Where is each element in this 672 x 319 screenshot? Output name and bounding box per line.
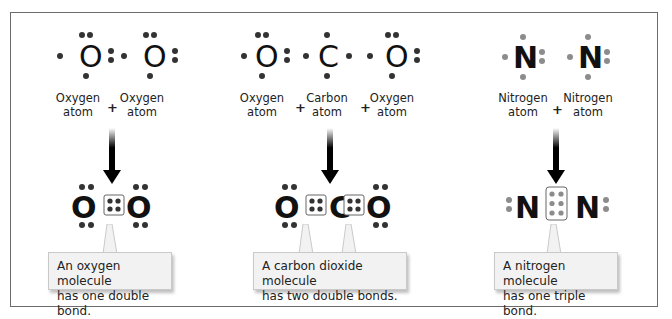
co2-molecule-lewis: O C O	[273, 182, 401, 230]
callout-pointer	[339, 224, 363, 254]
reaction-arrow-icon	[100, 128, 124, 188]
callout-pointer	[544, 224, 568, 254]
nitrogen-atoms-lewis: N N	[496, 26, 626, 86]
svg-text:N: N	[575, 190, 600, 224]
reactant-label-oxygen-1: Oxygenatom	[43, 91, 113, 119]
svg-text:O: O	[255, 39, 279, 74]
callout-pointer	[100, 224, 124, 254]
svg-text:O: O	[366, 190, 392, 225]
callout-oxygen: An oxygen moleculehas one double bond.	[48, 252, 172, 290]
reactant-label-nitrogen-2: Nitrogenatom	[553, 91, 623, 119]
nitrogen-molecule-lewis: N N	[505, 184, 615, 224]
svg-text:N: N	[515, 190, 540, 224]
oxygen-atoms-lewis: O O	[50, 24, 180, 84]
callout-pointer	[296, 224, 320, 254]
callout-carbon-dioxide: A carbon dioxide moleculehas two double …	[253, 252, 407, 290]
reactant-label-oxygen-2: Oxygenatom	[107, 91, 177, 119]
svg-text:N: N	[578, 40, 603, 75]
reactant-label-oxygen-1: Oxygenatom	[227, 91, 297, 119]
co2-atoms-lewis: O C O	[240, 24, 440, 84]
svg-text:O: O	[126, 190, 152, 225]
reactant-label-oxygen-2: Oxygenatom	[357, 91, 427, 119]
svg-text:O: O	[79, 39, 103, 74]
oxygen-molecule-lewis: O O	[70, 182, 160, 230]
callout-nitrogen: A nitrogen moleculehas one triple bond.	[494, 252, 618, 290]
svg-text:O: O	[274, 190, 300, 225]
reaction-arrow-icon	[318, 128, 342, 188]
reactant-label-nitrogen-1: Nitrogenatom	[488, 91, 558, 119]
reactant-label-carbon: Carbonatom	[292, 91, 362, 119]
svg-text:O: O	[71, 190, 97, 225]
svg-text:N: N	[513, 40, 538, 75]
svg-text:O: O	[385, 39, 409, 74]
svg-text:C: C	[318, 39, 339, 74]
reaction-arrow-icon	[544, 128, 568, 188]
svg-text:O: O	[143, 39, 167, 74]
